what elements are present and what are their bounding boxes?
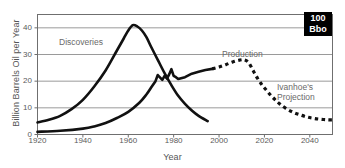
reserves-badge: 100 Bbo bbox=[304, 12, 332, 36]
x-tick-label-2020: 2020 bbox=[249, 136, 279, 145]
badge-amount: 100 bbox=[304, 13, 332, 24]
oil-discoveries-production-chart: Billion Barrels Oil per Year Year 192019… bbox=[0, 0, 345, 168]
x-tick-label-1940: 1940 bbox=[68, 136, 98, 145]
x-axis-title: Year bbox=[0, 152, 345, 162]
y-tick-label-20: 20 bbox=[18, 76, 32, 85]
series-label-production: Production bbox=[222, 50, 263, 60]
series-path-production bbox=[38, 69, 213, 132]
plot-border bbox=[38, 15, 333, 135]
ivanhoe-label-line2: Projection bbox=[277, 93, 315, 103]
badge-unit: Bbo bbox=[304, 24, 332, 35]
y-tick-label-30: 30 bbox=[18, 50, 32, 59]
x-tick-label-2040: 2040 bbox=[295, 136, 325, 145]
y-tick-label-0: 0 bbox=[18, 130, 32, 139]
series-label-ivanhoe-projection: Ivanhoe's Projection bbox=[277, 83, 315, 102]
series-label-discoveries: Discoveries bbox=[59, 38, 103, 48]
y-tick-label-10: 10 bbox=[18, 103, 32, 112]
x-tick-label-2000: 2000 bbox=[204, 136, 234, 145]
x-tick-label-1960: 1960 bbox=[113, 136, 143, 145]
y-tick-label-40: 40 bbox=[18, 23, 32, 32]
plot-frame bbox=[38, 15, 333, 135]
x-tick-label-1980: 1980 bbox=[159, 136, 189, 145]
